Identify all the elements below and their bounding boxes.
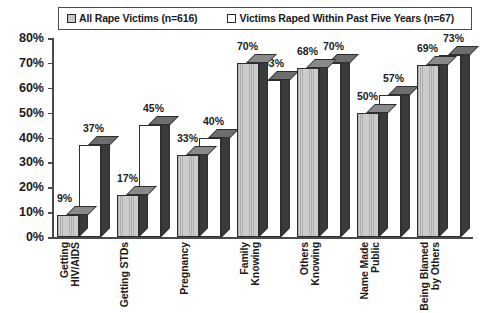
x-axis-category-label: FamilyKnowing [239,242,261,286]
y-axis-tick-label: 10% [19,206,44,219]
bar-depth-top [388,86,419,95]
bar-value-label: 50% [357,91,378,102]
x-axis-category-label: Getting STDs [119,242,130,307]
legend-entry-victims-past-five-years: Victims Raped Within Past Five Years (n=… [227,13,454,24]
bar-front-face [357,113,379,237]
y-axis-tick-label: 40% [19,131,44,144]
bar-depth-top [88,136,119,145]
bar-value-label: 57% [383,73,404,84]
bar-depth-top [448,46,479,55]
y-axis-tick-label: 20% [19,181,44,194]
bar-1 [177,146,208,237]
bar-front-face [237,63,259,237]
bar-1 [417,56,448,237]
bar-1 [57,206,88,237]
y-axis-tick-label: 70% [19,57,44,70]
bar-value-label: 70% [237,41,258,52]
bar-value-label: 33% [177,133,198,144]
legend-label-series-1: All Rape Victims (n=616) [79,13,197,24]
y-axis-tick-label: 60% [19,82,44,95]
x-axis-category-label: GettingHIV/AIDS [59,242,81,287]
x-axis-category-label: Being Blamedby Others [419,242,441,311]
bar-depth-side [221,129,230,238]
bar-value-label: 68% [297,46,318,57]
bar-value-label: 73% [443,33,464,44]
bar-1 [117,186,148,237]
y-axis-tick-label: 80% [19,32,44,45]
bar-depth-side [439,56,448,237]
bar-front-face [117,195,139,237]
bar-depth-side [401,86,410,237]
x-axis-category-line: Knowing [310,242,321,286]
bar-depth-side [259,54,268,237]
x-axis-category-line: Knowing [250,242,261,286]
legend-swatch-gray-icon [67,14,76,23]
y-axis-tick-label: 50% [19,106,44,119]
bar-depth-top [268,71,299,80]
x-axis-category-label: Name MadePublic [359,242,381,299]
bar-front-face [177,155,199,237]
bar-depth-side [281,71,290,237]
bar-front-face [57,215,79,237]
chart-legend: All Rape Victims (n=616) Victims Raped W… [58,7,472,30]
bar-1 [357,104,388,237]
y-axis-line [52,38,54,238]
y-axis-tick-label: 0% [26,231,44,244]
bar-value-label: 37% [83,123,104,134]
bar-1 [237,54,268,237]
bar-value-label: 45% [143,103,164,114]
x-axis-category-line: Public [370,242,381,273]
bar-value-label: 69% [417,43,438,54]
bar-1 [297,59,328,237]
x-axis-category-line: Pregnancy [179,242,190,295]
bar-front-face [417,65,439,237]
bar-depth-side [319,59,328,237]
x-axis-category-line: HIV/AIDS [70,242,81,287]
bar-value-label: 40% [203,116,224,127]
bar-value-label: 70% [323,41,344,52]
bar-depth-side [161,116,170,237]
bar-depth-side [341,54,350,237]
y-axis-tick-label: 30% [19,156,44,169]
x-axis-category-label: OthersKnowing [299,242,321,286]
bar-chart: All Rape Victims (n=616) Victims Raped W… [0,0,487,313]
legend-entry-all-rape-victims: All Rape Victims (n=616) [67,13,197,24]
bar-depth-side [461,46,470,237]
bar-front-face [297,68,319,237]
bar-depth-top [148,116,179,125]
bar-depth-side [199,146,208,237]
bar-depth-top [208,129,239,138]
bar-value-label: 17% [117,173,138,184]
x-axis-category-line: by Others [430,242,441,290]
x-axis-category-line: Getting STDs [119,242,130,307]
x-axis-line [52,237,473,239]
bar-depth-side [379,104,388,237]
legend-label-series-2: Victims Raped Within Past Five Years (n=… [239,13,454,24]
bar-value-label: 9% [57,193,72,204]
legend-swatch-white-icon [227,14,236,23]
x-axis-category-label: Pregnancy [179,242,190,295]
bar-depth-side [101,136,110,237]
plot-area: 80%70%60%50%40%30%20%10%0%37%9%45%17%40%… [52,38,472,237]
